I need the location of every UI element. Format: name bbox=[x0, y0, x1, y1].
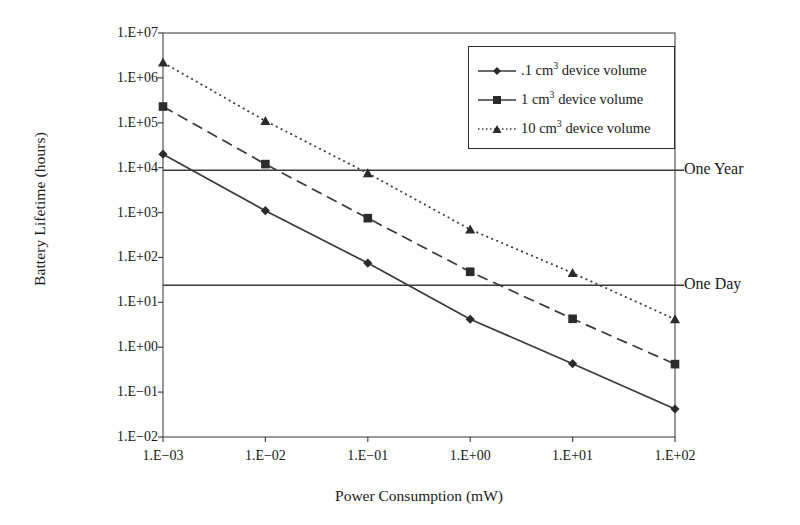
legend-label: 1 cm3 device volume bbox=[521, 92, 643, 107]
data-point-marker bbox=[465, 224, 475, 233]
plot-area bbox=[0, 0, 800, 525]
chart-figure: Battery Lifetime (hours) Power Consumpti… bbox=[0, 0, 800, 525]
data-point-marker bbox=[466, 315, 475, 324]
data-point-marker bbox=[568, 359, 577, 368]
data-point-marker bbox=[568, 268, 578, 277]
data-point-marker bbox=[670, 404, 679, 413]
legend-key-diamond-icon bbox=[477, 64, 517, 78]
data-point-marker bbox=[158, 150, 167, 159]
data-point-marker bbox=[364, 214, 373, 223]
legend-label: 10 cm3 device volume bbox=[521, 121, 650, 136]
legend-item[interactable]: 10 cm3 device volume bbox=[477, 114, 666, 143]
legend-item[interactable]: 1 cm3 device volume bbox=[477, 85, 666, 114]
chart-legend: .1 cm3 device volume 1 cm3 device volume… bbox=[468, 46, 675, 149]
legend-label: .1 cm3 device volume bbox=[521, 63, 647, 78]
data-point-marker bbox=[260, 116, 270, 125]
data-point-marker bbox=[158, 58, 168, 67]
data-point-marker bbox=[363, 258, 372, 267]
data-point-marker bbox=[670, 314, 680, 323]
series-line bbox=[163, 154, 675, 409]
data-point-marker bbox=[568, 314, 577, 323]
legend-item[interactable]: .1 cm3 device volume bbox=[477, 56, 666, 85]
data-point-marker bbox=[466, 267, 475, 276]
legend-key-square-icon bbox=[477, 93, 517, 107]
data-point-marker bbox=[261, 160, 270, 169]
data-point-marker bbox=[159, 102, 168, 111]
data-point-marker bbox=[671, 360, 680, 369]
data-point-marker bbox=[261, 206, 270, 215]
legend-key-triangle-icon bbox=[477, 122, 517, 136]
